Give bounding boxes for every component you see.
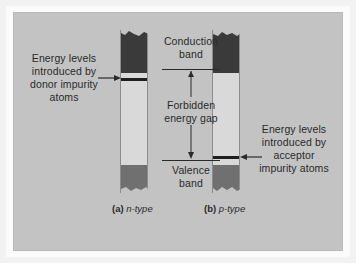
caption-n-type: (a) n-type bbox=[112, 203, 153, 214]
caption-p-type: (b) p-type bbox=[204, 203, 245, 214]
diagram-canvas: Conduction band Forbidden energy gap Val… bbox=[14, 13, 342, 250]
caption-p-marker: (b) bbox=[204, 203, 216, 214]
acceptor-callout-leader-arrow bbox=[14, 13, 342, 250]
figure-root: Conduction band Forbidden energy gap Val… bbox=[0, 0, 356, 263]
caption-n-marker: (a) bbox=[112, 203, 124, 214]
caption-p-text: p-type bbox=[219, 203, 245, 214]
caption-n-text: n-type bbox=[126, 203, 152, 214]
